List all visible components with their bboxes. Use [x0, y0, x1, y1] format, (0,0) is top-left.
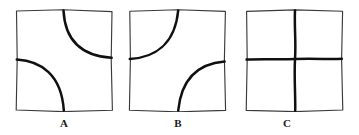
panel-c-drawing [245, 9, 344, 112]
panel-b-frame [129, 10, 225, 112]
panel-c-label: C [277, 117, 297, 129]
panel-c [245, 9, 344, 112]
panel-b-arc-upper-left [130, 11, 178, 60]
panel-a-label: A [54, 117, 74, 129]
panel-b-drawing [128, 9, 227, 112]
panel-c-cross-vertical-line [295, 10, 296, 110]
panel-a-drawing [15, 9, 113, 112]
panel-a-arc-upper-right [64, 11, 112, 58]
panel-b [128, 9, 227, 112]
panel-a-arc-lower-left [17, 60, 64, 111]
panel-a [15, 9, 113, 112]
panel-b-label: B [168, 117, 188, 129]
panel-c-cross-horizontal-line [247, 59, 342, 60]
figure-container: A B C [0, 0, 359, 135]
panel-b-arc-lower-right [178, 62, 224, 111]
